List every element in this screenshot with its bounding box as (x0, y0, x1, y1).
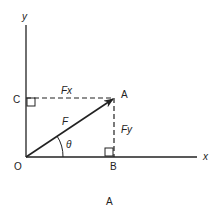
right-angle-mark-b (105, 148, 113, 156)
angle-arc (57, 136, 63, 157)
figure-caption: A (106, 196, 113, 207)
point-b-label: B (110, 161, 117, 172)
fy-label: Fy (121, 124, 133, 135)
point-a-label: A (121, 89, 128, 100)
y-axis-label: y (21, 11, 28, 22)
angle-theta-label: θ (66, 139, 72, 150)
fx-label: Fx (61, 85, 73, 96)
x-axis-label: x (202, 151, 209, 162)
vector-f-label: F (62, 116, 69, 127)
right-angle-mark-c (27, 98, 35, 106)
point-o-label: O (14, 161, 22, 172)
point-c-label: C (13, 94, 20, 105)
force-components-diagram: y x O A B C F Fx Fy θ A (0, 0, 218, 215)
